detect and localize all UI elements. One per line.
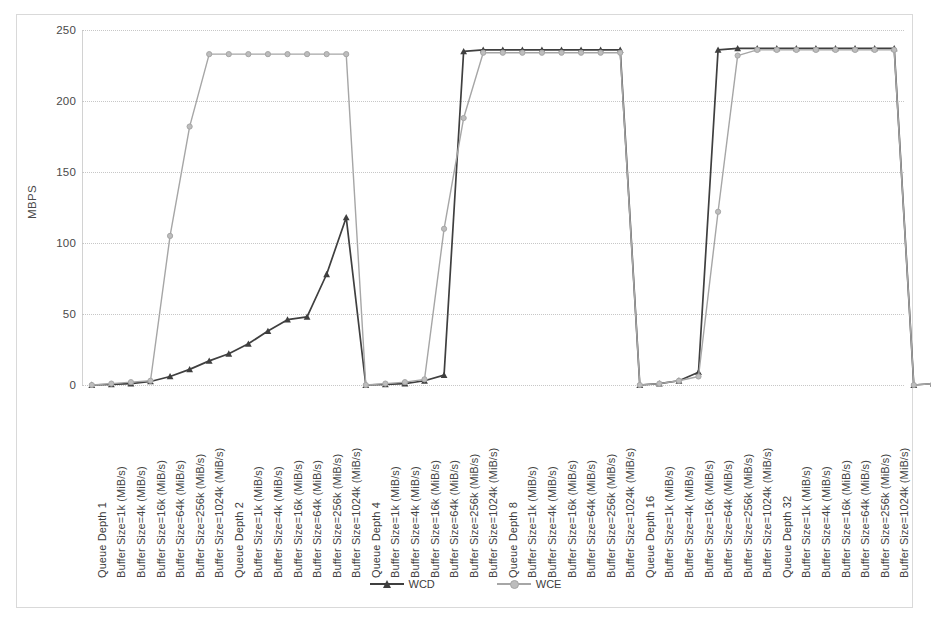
data-point-wce xyxy=(520,50,525,55)
x-axis-tick-label: Buffer Size=64k (MiB/s) xyxy=(859,388,871,578)
data-point-wce xyxy=(207,52,212,57)
data-point-wce xyxy=(89,382,94,387)
data-point-wce xyxy=(813,47,818,52)
x-axis-tick-label: Buffer Size=16k (MiB/s) xyxy=(840,388,852,578)
x-axis-tick-label: Buffer Size=1024k (MiB/s) xyxy=(213,388,225,578)
x-axis-group-label: Queue Depth 2 xyxy=(233,388,245,578)
data-point-wce xyxy=(618,50,623,55)
data-point-wce xyxy=(481,50,486,55)
x-axis-tick-label: Buffer Size=16k (MiB/s) xyxy=(429,388,441,578)
x-axis-tick-label: Buffer Size=1k (MiB/s) xyxy=(389,388,401,578)
data-point-wce xyxy=(657,381,662,386)
data-point-wce xyxy=(344,52,349,57)
data-point-wce xyxy=(402,380,407,385)
data-point-wce xyxy=(324,52,329,57)
x-axis-group-label: Queue Depth 16 xyxy=(644,388,656,578)
x-axis-tick-label: Buffer Size=256k (MiB/s) xyxy=(468,388,480,578)
data-point-wce xyxy=(696,374,701,379)
x-axis-tick-label: Buffer Size=256k (MiB/s) xyxy=(194,388,206,578)
x-axis-tick-label: Buffer Size=16k (MiB/s) xyxy=(155,388,167,578)
series-plot xyxy=(82,30,904,385)
data-point-wce xyxy=(441,226,446,231)
x-axis-tick-label: Buffer Size=16k (MiB/s) xyxy=(566,388,578,578)
y-axis-tick-label: 250 xyxy=(30,24,76,36)
x-axis-tick-label: Buffer Size=1k (MiB/s) xyxy=(800,388,812,578)
chart-legend: WCDWCE xyxy=(0,578,931,590)
x-axis-tick-label: Buffer Size=1024k (MiB/s) xyxy=(624,388,636,578)
y-axis-tick-label: 0 xyxy=(30,379,76,391)
x-axis-tick-label: Buffer Size=4k (MiB/s) xyxy=(272,388,284,578)
data-point-wcd xyxy=(441,372,448,378)
legend-label: WCD xyxy=(409,578,435,590)
data-point-wce xyxy=(148,378,153,383)
plot-area xyxy=(82,30,904,385)
x-axis-tick-label: Buffer Size=4k (MiB/s) xyxy=(683,388,695,578)
gridline xyxy=(82,385,904,386)
x-axis-tick-label: Buffer Size=4k (MiB/s) xyxy=(409,388,421,578)
legend-swatch-wcd xyxy=(370,578,404,590)
legend-item-wcd[interactable]: WCD xyxy=(370,578,435,590)
data-point-wce xyxy=(735,53,740,58)
x-axis-group-label: Queue Depth 32 xyxy=(781,388,793,578)
data-point-wce xyxy=(539,50,544,55)
x-axis-tick-label: Buffer Size=256k (MiB/s) xyxy=(331,388,343,578)
legend-swatch-wce xyxy=(497,578,531,590)
x-axis-tick-label: Buffer Size=256k (MiB/s) xyxy=(605,388,617,578)
x-axis-tick-label: Buffer Size=256k (MiB/s) xyxy=(742,388,754,578)
data-point-wce xyxy=(911,382,916,387)
x-axis-tick-label: Buffer Size=1024k (MiB/s) xyxy=(898,388,910,578)
data-point-wce xyxy=(852,47,857,52)
data-point-wce xyxy=(598,50,603,55)
data-point-wce xyxy=(128,380,133,385)
data-point-wce xyxy=(755,47,760,52)
data-point-wce xyxy=(833,47,838,52)
x-axis-tick-label: Buffer Size=64k (MiB/s) xyxy=(585,388,597,578)
data-point-wce xyxy=(637,382,642,387)
data-point-wcd xyxy=(343,214,350,220)
data-point-wce xyxy=(578,50,583,55)
data-point-wce xyxy=(265,52,270,57)
data-point-wce xyxy=(187,124,192,129)
data-point-wce xyxy=(794,47,799,52)
y-axis-title: MBPS xyxy=(26,162,38,242)
legend-triangle-marker-icon xyxy=(383,580,391,588)
data-point-wce xyxy=(167,233,172,238)
legend-label: WCE xyxy=(536,578,562,590)
x-axis-tick-label: Buffer Size=4k (MiB/s) xyxy=(546,388,558,578)
x-axis-tick-label: Buffer Size=1024k (MiB/s) xyxy=(761,388,773,578)
x-axis-tick-label: Buffer Size=1k (MiB/s) xyxy=(526,388,538,578)
x-axis-group-label: Queue Depth 1 xyxy=(96,388,108,578)
x-axis-tick-label: Buffer Size=4k (MiB/s) xyxy=(135,388,147,578)
x-axis-tick-label: Buffer Size=64k (MiB/s) xyxy=(448,388,460,578)
data-point-wce xyxy=(383,381,388,386)
chart-container: 050100150200250 MBPS Queue Depth 1Buffer… xyxy=(0,0,931,629)
y-axis-tick-label: 50 xyxy=(30,308,76,320)
legend-circle-marker-icon xyxy=(510,580,519,589)
data-point-wce xyxy=(676,378,681,383)
series-line-wce xyxy=(92,50,931,385)
x-axis-tick-label: Buffer Size=64k (MiB/s) xyxy=(174,388,186,578)
legend-item-wce[interactable]: WCE xyxy=(497,578,562,590)
x-axis-tick-label: Buffer Size=1024k (MiB/s) xyxy=(350,388,362,578)
x-axis-tick-label: Buffer Size=1k (MiB/s) xyxy=(252,388,264,578)
data-point-wce xyxy=(461,115,466,120)
data-point-wce xyxy=(892,47,897,52)
data-point-wce xyxy=(109,381,114,386)
x-axis-tick-label: Buffer Size=1k (MiB/s) xyxy=(663,388,675,578)
data-point-wce xyxy=(715,209,720,214)
data-point-wce xyxy=(774,47,779,52)
x-axis-tick-label: Buffer Size=64k (MiB/s) xyxy=(722,388,734,578)
data-point-wce xyxy=(872,47,877,52)
x-axis-tick-labels: Queue Depth 1Buffer Size=1k (MiB/s)Buffe… xyxy=(82,388,904,584)
data-point-wce xyxy=(500,50,505,55)
x-axis-tick-label: Buffer Size=1k (MiB/s) xyxy=(115,388,127,578)
x-axis-tick-label: Buffer Size=16k (MiB/s) xyxy=(292,388,304,578)
data-point-wce xyxy=(363,382,368,387)
x-axis-group-label: Queue Depth 8 xyxy=(507,388,519,578)
data-point-wce xyxy=(246,52,251,57)
series-line-wcd xyxy=(92,48,931,385)
x-axis-tick-label: Buffer Size=4k (MiB/s) xyxy=(820,388,832,578)
data-point-wce xyxy=(226,52,231,57)
data-point-wce xyxy=(285,52,290,57)
x-axis-tick-label: Buffer Size=16k (MiB/s) xyxy=(703,388,715,578)
